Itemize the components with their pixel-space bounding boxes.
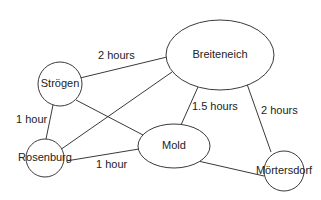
edge-breiteneich-mortersdorf (247, 84, 271, 152)
edge-label-rosenburg-mold: 1 hour (96, 158, 128, 170)
node-mold: Mold (138, 124, 210, 168)
edge-label-breiteneich-mortersdorf: 2 hours (261, 104, 298, 116)
node-breiteneich: Breiteneich (166, 20, 274, 90)
node-strogen: Strögen (38, 62, 82, 106)
node-rosenburg: Rosenburg (18, 139, 72, 177)
edge-label-breiteneich-mold: 1.5 hours (192, 100, 238, 112)
edge-mold-mortersdorf (198, 161, 264, 176)
edge-strogen-mold (76, 100, 143, 135)
node-label-mold: Mold (162, 139, 186, 151)
node-label-rosenburg: Rosenburg (18, 151, 72, 163)
edge-label-strogen-rosenburg: 1 hour (16, 113, 48, 125)
node-label-strogen: Strögen (41, 77, 80, 89)
node-mortersdorf: Mörtersdorf (256, 151, 313, 191)
node-label-breiteneich: Breiteneich (192, 48, 247, 60)
node-label-mortersdorf: Mörtersdorf (256, 164, 313, 176)
city-travel-graph: BreiteneichStrögenRosenburgMoldMörtersdo… (0, 0, 321, 200)
edge-label-strogen-breiteneich: 2 hours (98, 49, 135, 61)
